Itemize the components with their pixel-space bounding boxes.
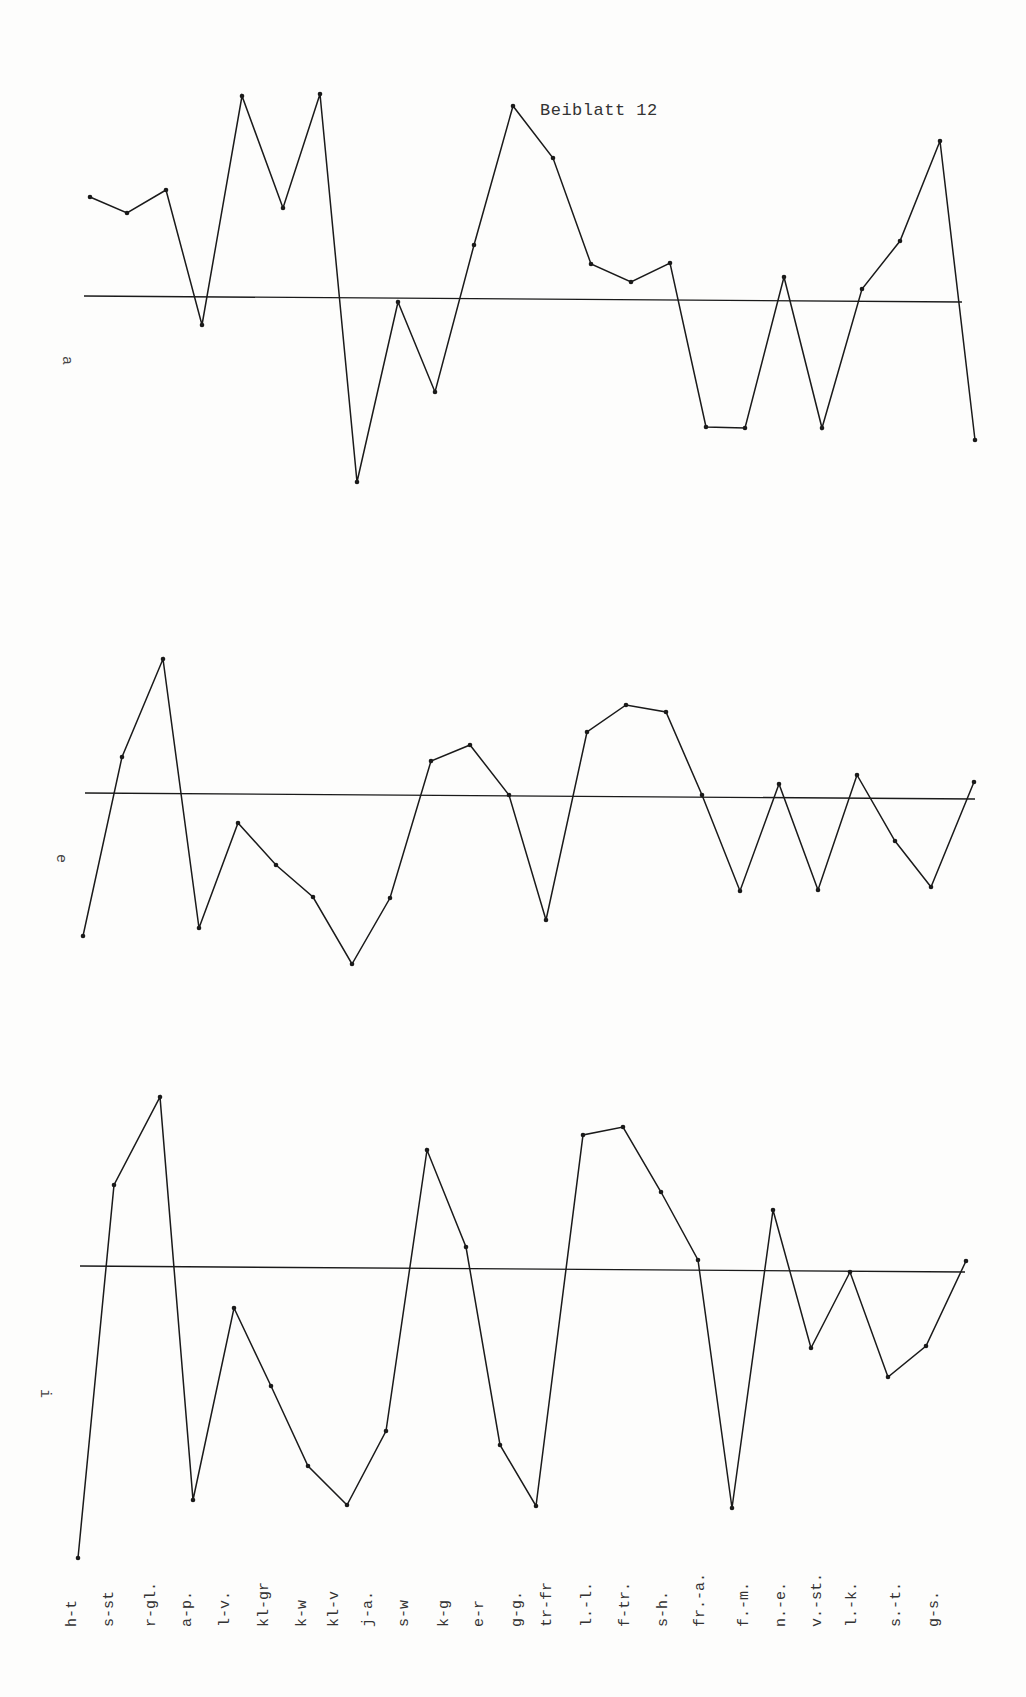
data-point bbox=[498, 1443, 503, 1448]
data-point bbox=[507, 793, 512, 798]
data-point bbox=[355, 480, 360, 485]
data-point bbox=[743, 426, 748, 431]
x-axis-label: g-g. bbox=[509, 1591, 526, 1627]
data-point bbox=[782, 275, 787, 280]
x-axis-label: r-gl. bbox=[143, 1582, 160, 1627]
data-point bbox=[384, 1429, 389, 1434]
data-point bbox=[771, 1208, 776, 1213]
data-point bbox=[659, 1190, 664, 1195]
data-point bbox=[232, 1306, 237, 1311]
data-point bbox=[236, 821, 241, 826]
data-point bbox=[938, 139, 943, 144]
data-point bbox=[345, 1503, 350, 1508]
data-point bbox=[197, 926, 202, 931]
data-point bbox=[350, 962, 355, 967]
x-axis-label: kl-gr bbox=[256, 1582, 273, 1627]
data-point bbox=[158, 1095, 163, 1100]
series-line-a bbox=[90, 94, 975, 482]
document-page: Beiblatt 12 a e i h-ts-str-gl.a-p.l-v.kl… bbox=[0, 0, 1026, 1697]
data-point bbox=[429, 759, 434, 764]
data-point bbox=[76, 1556, 81, 1561]
panel-label-i: i bbox=[36, 1389, 53, 1398]
x-axis-label: s-st bbox=[101, 1591, 118, 1627]
x-axis-label: l.-l. bbox=[579, 1582, 596, 1627]
data-point bbox=[624, 703, 629, 708]
data-point bbox=[306, 1464, 311, 1469]
data-point bbox=[704, 425, 709, 430]
panel-i bbox=[76, 1095, 969, 1561]
data-point bbox=[125, 211, 130, 216]
x-axis-label: s-w bbox=[396, 1600, 413, 1627]
data-point bbox=[240, 94, 245, 99]
data-point bbox=[388, 896, 393, 901]
x-axis-label: l-v. bbox=[217, 1591, 234, 1627]
data-point bbox=[738, 889, 743, 894]
data-point bbox=[855, 773, 860, 778]
x-axis-label: v.-st. bbox=[809, 1573, 826, 1627]
data-point bbox=[893, 839, 898, 844]
data-point bbox=[274, 863, 279, 868]
data-point bbox=[544, 918, 549, 923]
data-point bbox=[589, 262, 594, 267]
x-axis-label: s-h. bbox=[655, 1591, 672, 1627]
x-axis-label: k-w bbox=[294, 1600, 311, 1627]
x-axis-label: kl-v bbox=[326, 1591, 343, 1627]
data-point bbox=[973, 438, 978, 443]
x-axis-label: f.-m. bbox=[736, 1582, 753, 1627]
data-point bbox=[621, 1125, 626, 1130]
data-point bbox=[730, 1506, 735, 1511]
data-point bbox=[581, 1133, 586, 1138]
data-point bbox=[200, 323, 205, 328]
sheet-title: Beiblatt 12 bbox=[540, 101, 658, 120]
zero-baseline bbox=[80, 1266, 965, 1272]
data-point bbox=[88, 195, 93, 200]
data-point bbox=[269, 1384, 274, 1389]
panel-label-e: e bbox=[52, 854, 69, 863]
data-point bbox=[972, 780, 977, 785]
x-axis-label: e-r bbox=[471, 1600, 488, 1627]
data-point bbox=[551, 156, 556, 161]
line-chart-stack bbox=[0, 0, 1026, 1697]
data-point bbox=[425, 1148, 430, 1153]
series-line-e bbox=[83, 659, 974, 964]
x-axis-label: s.-t. bbox=[888, 1582, 905, 1627]
data-point bbox=[898, 239, 903, 244]
data-point bbox=[777, 782, 782, 787]
data-point bbox=[809, 1346, 814, 1351]
x-axis-label: j-a. bbox=[360, 1591, 377, 1627]
x-axis-label: fr.-a. bbox=[692, 1573, 709, 1627]
data-point bbox=[191, 1498, 196, 1503]
data-point bbox=[433, 390, 438, 395]
zero-baseline bbox=[84, 296, 962, 302]
data-point bbox=[472, 243, 477, 248]
data-point bbox=[886, 1375, 891, 1380]
data-point bbox=[664, 710, 669, 715]
data-point bbox=[112, 1183, 117, 1188]
data-point bbox=[924, 1344, 929, 1349]
x-axis-label: n.-e. bbox=[773, 1582, 790, 1627]
series-line-i bbox=[78, 1097, 966, 1558]
x-axis-label: k-g bbox=[436, 1600, 453, 1627]
data-point bbox=[311, 895, 316, 900]
data-point bbox=[585, 730, 590, 735]
data-point bbox=[81, 934, 86, 939]
data-point bbox=[120, 755, 125, 760]
x-axis-label: l.-k. bbox=[844, 1582, 861, 1627]
data-point bbox=[929, 885, 934, 890]
data-point bbox=[964, 1259, 969, 1264]
data-point bbox=[629, 280, 634, 285]
data-point bbox=[464, 1245, 469, 1250]
data-point bbox=[668, 261, 673, 266]
data-point bbox=[511, 104, 516, 109]
x-axis-label: a-p. bbox=[179, 1591, 196, 1627]
data-point bbox=[534, 1504, 539, 1509]
data-point bbox=[816, 888, 821, 893]
data-point bbox=[696, 1258, 701, 1263]
data-point bbox=[860, 287, 865, 292]
x-axis-label: h-t bbox=[64, 1600, 81, 1627]
x-axis-label: g-s. bbox=[926, 1591, 943, 1627]
x-axis-label: tr-fr bbox=[539, 1582, 556, 1627]
data-point bbox=[161, 657, 166, 662]
data-point bbox=[396, 300, 401, 305]
data-point bbox=[318, 92, 323, 97]
